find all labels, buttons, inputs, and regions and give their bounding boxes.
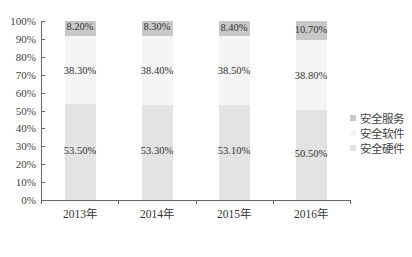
x-tick-mark [350, 200, 351, 204]
y-tick-mark [41, 111, 45, 112]
y-tick-mark [41, 93, 45, 94]
x-tick-mark [118, 200, 119, 204]
bar-value-label: 38.50% [209, 65, 259, 76]
legend-swatch [350, 130, 356, 136]
x-tick-mark [41, 200, 42, 204]
legend-label: 安全软件 [360, 125, 404, 141]
bar-value-label: 53.30% [132, 145, 182, 156]
bar-value-label: 53.10% [209, 145, 259, 156]
bar-value-label: 53.50% [55, 145, 105, 156]
y-tick-label: 40% [0, 122, 36, 134]
y-tick-label: 10% [0, 176, 36, 188]
y-tick-label: 0% [0, 194, 36, 206]
legend-label: 安全硬件 [360, 140, 404, 156]
legend-item: 安全软件 [350, 125, 404, 140]
y-tick-mark [41, 146, 45, 147]
stacked-bar-chart: 0%10%20%30%40%50%60%70%80%90%100%2013年53… [0, 0, 412, 257]
legend-swatch [350, 145, 356, 151]
bar-value-label: 38.30% [55, 65, 105, 76]
y-tick-label: 80% [0, 51, 36, 63]
bar-value-label: 8.30% [132, 21, 182, 32]
x-tick-label: 2015年 [199, 205, 269, 221]
bar-value-label: 38.40% [132, 65, 182, 76]
legend-swatch [350, 115, 356, 121]
legend-label: 安全服务 [360, 110, 404, 126]
y-tick-mark [41, 75, 45, 76]
bar-value-label: 10.70% [286, 24, 336, 35]
x-tick-label: 2016年 [276, 205, 346, 221]
legend-item: 安全硬件 [350, 140, 404, 155]
chart-legend: 安全服务安全软件安全硬件 [350, 110, 404, 155]
bar-value-label: 38.80% [286, 70, 336, 81]
y-tick-mark [41, 57, 45, 58]
y-tick-mark [41, 182, 45, 183]
y-tick-label: 90% [0, 33, 36, 45]
bar-value-label: 8.20% [55, 21, 105, 32]
x-tick-label: 2014年 [122, 205, 192, 221]
x-tick-label: 2013年 [45, 205, 115, 221]
y-tick-mark [41, 128, 45, 129]
y-tick-label: 60% [0, 87, 36, 99]
y-tick-mark [41, 164, 45, 165]
y-tick-label: 50% [0, 105, 36, 117]
y-tick-mark [41, 21, 45, 22]
y-tick-label: 30% [0, 140, 36, 152]
x-tick-mark [273, 200, 274, 204]
legend-item: 安全服务 [350, 110, 404, 125]
y-tick-label: 20% [0, 158, 36, 170]
y-tick-label: 70% [0, 69, 36, 81]
bar-value-label: 50.50% [286, 148, 336, 159]
y-tick-label: 100% [0, 15, 36, 27]
y-tick-mark [41, 39, 45, 40]
x-tick-mark [196, 200, 197, 204]
bar-value-label: 8.40% [209, 22, 259, 33]
